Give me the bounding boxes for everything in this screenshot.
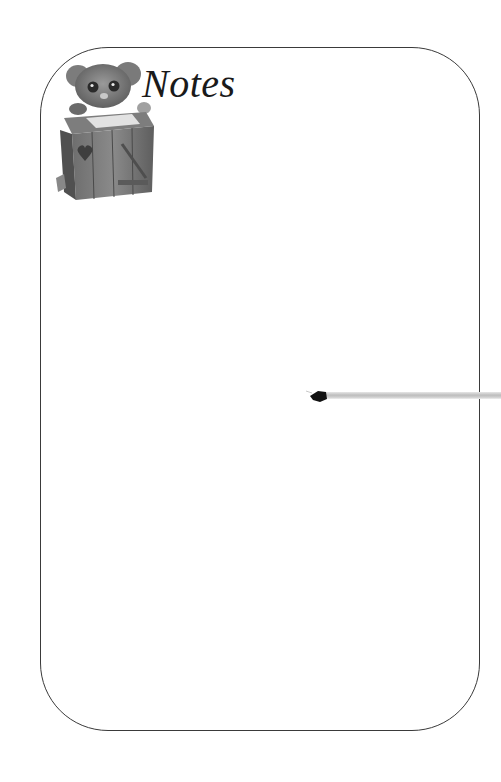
notes-title: Notes: [142, 64, 236, 104]
pen-shaft: [318, 392, 501, 399]
pen-pointer: [298, 386, 501, 406]
pen-tip-icon: [306, 389, 328, 403]
mouse-figurine-icon: [56, 60, 156, 205]
